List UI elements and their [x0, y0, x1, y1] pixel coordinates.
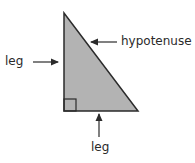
- triangle: [64, 13, 138, 111]
- right-triangle-diagram: [0, 0, 195, 163]
- bottom-leg-label: leg: [91, 141, 109, 153]
- hypotenuse-label: hypotenuse: [121, 35, 192, 47]
- left-leg-label: leg: [5, 55, 23, 67]
